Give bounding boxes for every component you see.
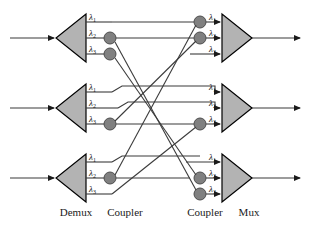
stage-label-demux: Demux <box>60 206 93 218</box>
row-1-demux-coupler-ch2[interactable] <box>104 32 116 44</box>
stage-label-coupler-left: Coupler <box>107 206 143 218</box>
row-3-demux-coupler-ch2[interactable] <box>104 172 116 184</box>
row-2-demux-coupler-ch3[interactable] <box>104 118 116 130</box>
wdm-cross-connect-diagram: λ1 λ2 λ3 λ1 λ2 λ3 λ1 λ2 λ3 <box>0 0 309 233</box>
diagram-canvas: λ1 λ2 λ3 λ1 λ2 λ3 λ1 λ2 λ3 <box>0 0 309 233</box>
row-1-demux-coupler-ch3[interactable] <box>104 48 116 60</box>
canvas-background <box>0 0 309 233</box>
stage-label-coupler-right: Coupler <box>187 206 223 218</box>
row-2-mux-coupler-ch3[interactable] <box>194 118 206 130</box>
stage-label-mux: Mux <box>239 206 260 218</box>
row-1-mux-coupler-ch2[interactable] <box>194 32 206 44</box>
